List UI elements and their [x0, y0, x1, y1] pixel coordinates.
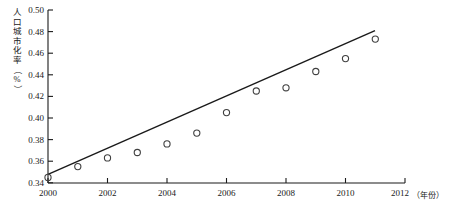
data-point — [283, 85, 289, 91]
data-point — [342, 56, 348, 62]
chart-plot-area — [0, 0, 453, 215]
x-axis-title: （年份） — [412, 189, 444, 200]
x-tick-label: 2004 — [158, 188, 176, 198]
data-point — [104, 155, 110, 161]
data-point — [253, 88, 259, 94]
data-point — [313, 68, 319, 74]
data-point — [75, 164, 81, 170]
data-point — [223, 110, 229, 116]
x-tick-label: 2010 — [337, 188, 355, 198]
x-axis-ticks — [48, 178, 405, 183]
chart-container: 人 口 城 市 化 率 （ % ） 0.50 0.48 0.46 0.44 0.… — [0, 0, 453, 215]
x-tick-label: 2000 — [39, 188, 57, 198]
data-point — [194, 130, 200, 136]
x-tick-label: 2012 — [391, 188, 409, 198]
data-point — [372, 36, 378, 42]
x-tick-label: 2006 — [218, 188, 236, 198]
trend-line — [48, 31, 375, 175]
data-point-markers — [45, 36, 379, 180]
x-tick-label: 2002 — [99, 188, 117, 198]
data-point — [164, 141, 170, 147]
x-tick-label: 2008 — [277, 188, 295, 198]
y-axis-ticks — [48, 10, 53, 183]
data-point — [134, 149, 140, 155]
